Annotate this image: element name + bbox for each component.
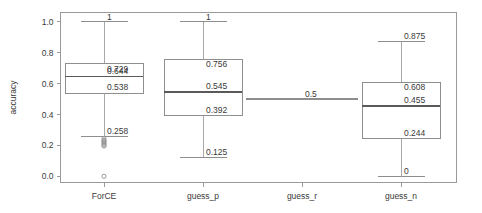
label-whisker-high-guess_p: 1 — [206, 12, 211, 22]
y-tick-label: 0.8 — [42, 48, 54, 58]
label-whisker-low-ForCE: 0.258 — [107, 126, 129, 136]
label-median-guess_n: 0.455 — [404, 95, 426, 105]
x-tick-label-guess_p: guess_p — [187, 191, 219, 201]
label-q1-guess_p: 0.392 — [206, 105, 228, 115]
y-tick-label: 0.4 — [42, 110, 54, 120]
label-median-guess_p: 0.545 — [206, 81, 228, 91]
outlier-ForCE-6 — [102, 174, 106, 178]
y-tick-label: 1.0 — [42, 17, 54, 27]
label-median-ForCE: 0.644 — [107, 66, 129, 76]
label-whisker-high-ForCE: 1 — [107, 12, 112, 22]
y-tick-label: 0.2 — [42, 140, 54, 150]
x-tick-label-guess_n: guess_n — [385, 191, 417, 201]
label-whisker-high-guess_n: 0.875 — [404, 31, 426, 41]
y-tick-label: 0.6 — [42, 79, 54, 89]
y-axis-title: accuracy — [8, 80, 18, 115]
x-tick-label-guess_r: guess_r — [287, 191, 317, 201]
plot-canvas: 0.00.20.40.60.81.0accuracyForCE10.7290.6… — [0, 0, 482, 213]
plot-frame — [61, 13, 457, 183]
box-guess_p — [164, 59, 242, 115]
label-q3-guess_n: 0.608 — [404, 82, 426, 92]
label-q1-guess_n: 0.244 — [404, 128, 426, 138]
x-tick-label-ForCE: ForCE — [92, 191, 117, 201]
box-ForCE — [65, 64, 143, 94]
box-guess_n — [362, 82, 440, 138]
label-median-guess_r: 0.5 — [305, 89, 317, 99]
y-tick-label: 0.0 — [42, 171, 54, 181]
label-whisker-low-guess_n: 0 — [404, 166, 409, 176]
boxplot-chart: 0.00.20.40.60.81.0accuracyForCE10.7290.6… — [0, 0, 482, 213]
label-whisker-low-guess_p: 0.125 — [206, 147, 228, 157]
label-q3-guess_p: 0.756 — [206, 59, 228, 69]
label-q1-ForCE: 0.538 — [107, 82, 129, 92]
